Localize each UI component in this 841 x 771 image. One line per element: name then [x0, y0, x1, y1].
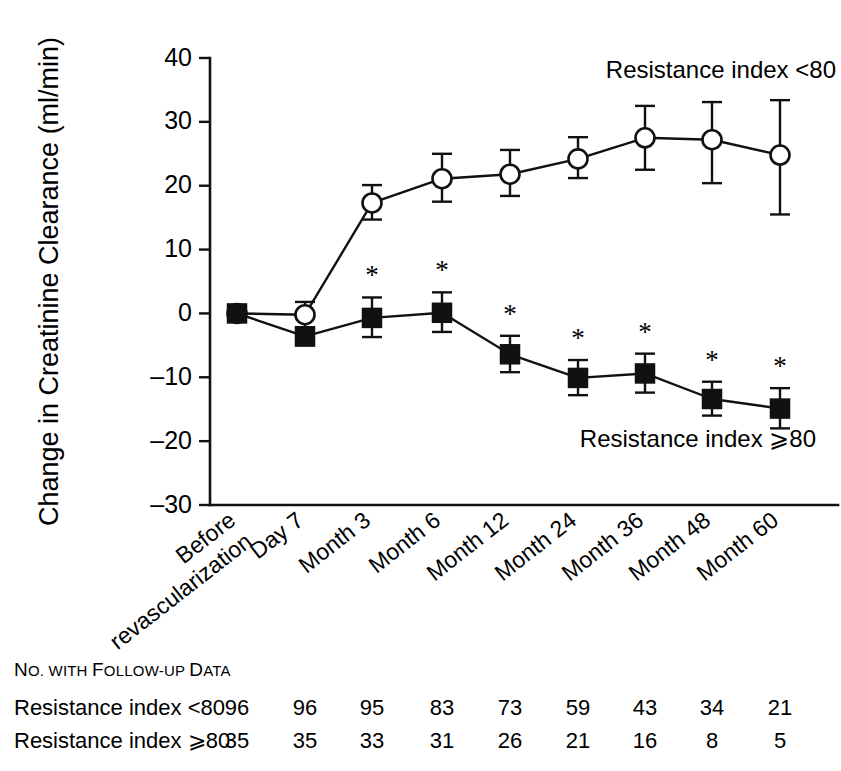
significance-asterisk: * [435, 255, 449, 285]
data-point-open-circle [433, 169, 452, 188]
data-point-filled-square [296, 327, 315, 346]
follow-up-row-value: 26 [498, 728, 522, 753]
data-point-filled-square [363, 308, 382, 327]
series-high-resistance: ******* [228, 255, 791, 428]
y-axis-tick-label: 10 [164, 234, 192, 262]
data-point-filled-square [771, 399, 790, 418]
significance-asterisk: * [705, 345, 719, 375]
series-low-resistance [228, 100, 791, 327]
data-series-layer: ******* [228, 100, 791, 428]
data-point-filled-square [636, 364, 655, 383]
data-point-open-circle [363, 193, 382, 212]
y-axis-title: Change in Creatinine Clearance (ml/min) [34, 37, 64, 526]
significance-asterisk: * [571, 323, 585, 353]
data-point-filled-square [501, 345, 520, 364]
data-point-open-circle [296, 305, 315, 324]
y-axis-tick-label: 20 [164, 170, 192, 198]
series-label-low-resistance: Resistance index <80 [606, 56, 836, 83]
follow-up-table-row: Resistance index ⩾803535333126211685 [14, 728, 786, 753]
significance-asterisk: * [638, 317, 652, 347]
follow-up-row-value: 83 [430, 695, 454, 720]
y-axis: 403020100–10–20–30 [150, 43, 210, 518]
data-point-filled-square [569, 368, 588, 387]
follow-up-row-value: 43 [633, 695, 657, 720]
x-axis-category-labels: BeforerevascularizationDay 7Month 3Month… [88, 506, 783, 654]
x-axis-category-line: Month 3 [294, 506, 375, 578]
significance-asterisk: * [365, 260, 379, 290]
follow-up-table-caption: NO. WITH FOLLOW-UP DATA [14, 659, 231, 680]
y-axis-tick-label: –10 [150, 362, 192, 390]
follow-up-row-value: 35 [225, 728, 249, 753]
follow-up-row-value: 8 [706, 728, 718, 753]
follow-up-row-value: 5 [774, 728, 786, 753]
significance-asterisk: * [773, 351, 787, 381]
follow-up-row-value: 73 [498, 695, 522, 720]
follow-up-row-value: 16 [633, 728, 657, 753]
data-point-filled-square [228, 304, 247, 323]
follow-up-row-label: Resistance index <80 [14, 695, 225, 720]
follow-up-row-value: 21 [566, 728, 590, 753]
figure-container: 403020100–10–20–30 Change in Creatinine … [0, 0, 841, 771]
series-label-high-resistance: Resistance index ⩾80 [580, 425, 816, 452]
y-axis-tick-label: 40 [164, 43, 192, 71]
x-axis-category-label: Beforerevascularization [88, 506, 257, 654]
follow-up-table-row: Resistance index <80969695837359433421 [14, 695, 792, 720]
data-point-open-circle [771, 146, 790, 165]
follow-up-row-value: 35 [293, 728, 317, 753]
y-axis-tick-label: 0 [178, 298, 192, 326]
creatinine-clearance-chart: 403020100–10–20–30 Change in Creatinine … [0, 0, 841, 771]
significance-asterisk: * [503, 299, 517, 329]
y-axis-tick-label: 30 [164, 106, 192, 134]
follow-up-row-value: 21 [768, 695, 792, 720]
data-point-filled-square [433, 303, 452, 322]
data-point-open-circle [501, 165, 520, 184]
follow-up-row-value: 59 [566, 695, 590, 720]
follow-up-row-value: 96 [225, 695, 249, 720]
follow-up-row-value: 33 [360, 728, 384, 753]
follow-up-row-value: 95 [360, 695, 384, 720]
follow-up-row-label: Resistance index ⩾80 [14, 728, 230, 753]
follow-up-row-value: 31 [430, 728, 454, 753]
y-axis-tick-label: –20 [150, 426, 192, 454]
y-axis-tick-label: –30 [150, 490, 192, 518]
data-point-open-circle [703, 130, 722, 149]
follow-up-row-value: 96 [293, 695, 317, 720]
data-point-filled-square [703, 389, 722, 408]
data-point-open-circle [636, 128, 655, 147]
follow-up-table: NO. WITH FOLLOW-UP DATAResistance index … [14, 659, 792, 753]
follow-up-row-value: 34 [700, 695, 724, 720]
x-axis-category-label: Month 3 [294, 506, 375, 578]
data-point-open-circle [569, 149, 588, 168]
y-axis-title-text: Change in Creatinine Clearance (ml/min) [34, 37, 64, 526]
